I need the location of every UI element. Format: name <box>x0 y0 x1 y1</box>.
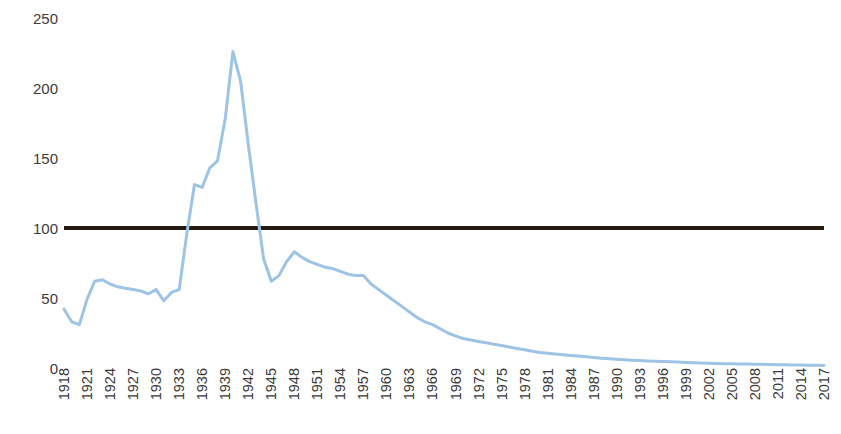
x-tick-label: 1984 <box>564 368 579 400</box>
plot-area <box>64 18 824 368</box>
x-tick-label: 1975 <box>495 368 510 400</box>
x-tick-label: 1948 <box>287 368 302 400</box>
x-axis: 1918192119241927193019331936193919421945… <box>64 368 824 434</box>
x-tick-label: 2005 <box>725 368 740 400</box>
x-tick-label: 2017 <box>817 368 832 400</box>
x-tick-label: 1978 <box>518 368 533 400</box>
x-tick-label: 2014 <box>794 368 809 400</box>
data-series-line <box>64 52 824 366</box>
x-tick-label: 1930 <box>149 368 164 400</box>
x-tick-label: 1981 <box>541 368 556 400</box>
x-tick-label: 1933 <box>172 368 187 400</box>
x-tick-label: 2011 <box>771 368 786 399</box>
line-chart: 050100150200250 191819211924192719301933… <box>0 0 841 434</box>
x-tick-label: 1927 <box>126 368 141 400</box>
y-tick-label: 150 <box>33 151 58 166</box>
x-tick-label: 1996 <box>656 368 671 400</box>
x-tick-label: 1960 <box>379 368 394 400</box>
y-tick-label: 50 <box>41 291 58 306</box>
x-tick-label: 1990 <box>610 368 625 400</box>
x-tick-label: 1939 <box>218 368 233 400</box>
x-tick-label: 1924 <box>103 368 118 400</box>
x-tick-label: 1942 <box>241 368 256 400</box>
x-tick-label: 1957 <box>356 368 371 400</box>
x-tick-label: 1945 <box>264 368 279 400</box>
x-tick-label: 2002 <box>702 368 717 400</box>
y-tick-label: 100 <box>33 221 58 236</box>
x-tick-label: 1987 <box>587 368 602 400</box>
x-tick-label: 1999 <box>679 368 694 400</box>
y-axis: 050100150200250 <box>0 0 58 434</box>
x-tick-label: 1936 <box>195 368 210 400</box>
x-tick-label: 1966 <box>425 368 440 400</box>
x-tick-label: 1921 <box>80 368 95 400</box>
x-tick-label: 1993 <box>633 368 648 400</box>
x-tick-label: 1951 <box>310 368 325 400</box>
x-tick-label: 1954 <box>333 368 348 400</box>
x-tick-label: 1972 <box>472 368 487 400</box>
x-tick-label: 1918 <box>57 368 72 400</box>
y-tick-label: 250 <box>33 11 58 26</box>
plot-svg <box>64 18 824 368</box>
x-tick-label: 2008 <box>748 368 763 400</box>
x-tick-label: 1969 <box>449 368 464 400</box>
x-tick-label: 1963 <box>402 368 417 400</box>
y-tick-label: 200 <box>33 81 58 96</box>
